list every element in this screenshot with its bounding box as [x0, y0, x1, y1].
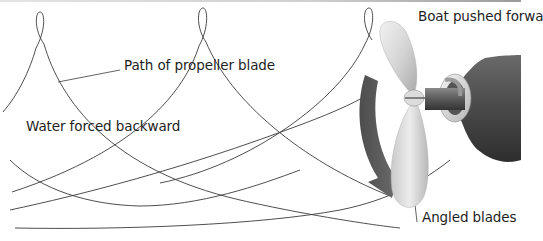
label-path-of-blade: Path of propeller blade [124, 57, 275, 73]
label-water-forced-backward: Water forced backward [26, 118, 180, 134]
propeller-shaft-housing [425, 55, 521, 162]
label-boat-pushed-forward: Boat pushed forwa [418, 8, 543, 24]
label-angled-blades: Angled blades [422, 209, 516, 225]
